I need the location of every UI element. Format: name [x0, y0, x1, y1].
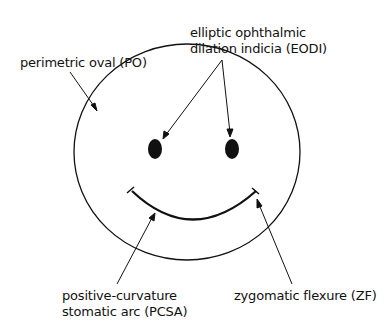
- label-po: perimetric oval (PO): [20, 55, 147, 71]
- label-zf: zygomatic flexure (ZF): [234, 288, 377, 304]
- right-eye: [225, 139, 239, 159]
- zygomatic-flexure-shading: [187, 44, 315, 261]
- label-pcsa-line2: stomatic arc (PCSA): [62, 304, 187, 320]
- label-eodi: elliptic ophthalmic dilation indicia (EO…: [190, 25, 327, 57]
- mouth-arc: [132, 191, 256, 220]
- perimetric-oval: [74, 44, 300, 260]
- label-pcsa: positive-curvature stomatic arc (PCSA): [62, 288, 187, 320]
- label-pcsa-line1: positive-curvature: [62, 288, 187, 304]
- label-eodi-line1: elliptic ophthalmic: [190, 25, 327, 41]
- label-eodi-line2: dilation indicia (EODI): [190, 41, 327, 57]
- left-eye: [148, 139, 162, 159]
- pointer-lines: [70, 60, 292, 284]
